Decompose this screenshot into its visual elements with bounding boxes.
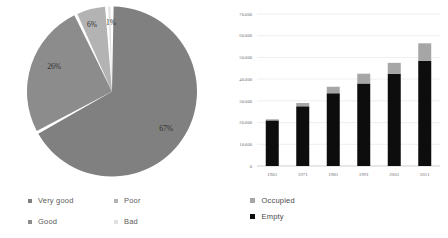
y-tick-label-60000: 60.000 xyxy=(239,33,252,38)
legend-item-bad[interactable]: Bad xyxy=(114,217,200,226)
bar-series-group xyxy=(266,43,432,166)
y-tick-label-0: 0 xyxy=(250,164,253,169)
bar-segment-occupied-2011[interactable] xyxy=(418,43,431,60)
bar-segment-empty-1971[interactable] xyxy=(296,106,309,166)
x-tick-label-1971: 1971 xyxy=(298,172,309,177)
bar-segment-occupied-1971[interactable] xyxy=(296,103,309,106)
legend-swatch-poor xyxy=(114,199,118,203)
x-tick-label-1981: 1981 xyxy=(328,172,339,177)
legend-item-empty[interactable]: Empty xyxy=(250,212,390,221)
pie-chart-figure: 67%26%6%1% xyxy=(13,5,211,178)
bar-y-axis-ticks: 010.00020.00030.00040.00050.00060.00070.… xyxy=(239,12,252,169)
bar-segment-occupied-1961[interactable] xyxy=(266,119,279,120)
pie-chart-svg: 67%26%6%1% xyxy=(13,5,211,178)
bar-legend: Occupied Empty xyxy=(250,196,390,221)
legend-item-occupied[interactable]: Occupied xyxy=(250,196,390,205)
bar-gridlines xyxy=(257,14,440,166)
legend-swatch-empty xyxy=(250,214,255,219)
pie-chart-panel: 67%26%6%1% Very good Poor Good Bad xyxy=(0,0,224,238)
legend-label-poor: Poor xyxy=(124,196,141,205)
bar-segment-empty-2011[interactable] xyxy=(418,61,431,166)
y-tick-label-10000: 10.000 xyxy=(239,142,252,147)
y-tick-label-50000: 50.000 xyxy=(239,55,252,60)
legend-swatch-very-good xyxy=(28,199,32,203)
x-tick-label-2001: 2001 xyxy=(389,172,400,177)
pie-legend: Very good Poor Good Bad xyxy=(28,190,208,232)
bar-x-axis-ticks: 196119711981199120012011 xyxy=(267,172,430,177)
x-tick-label-1961: 1961 xyxy=(267,172,278,177)
legend-swatch-occupied xyxy=(250,198,255,203)
y-tick-label-40000: 40.000 xyxy=(239,77,252,82)
legend-item-poor[interactable]: Poor xyxy=(114,196,200,205)
bar-chart-figure: 010.00020.00030.00040.00050.00060.00070.… xyxy=(224,6,448,186)
legend-label-good: Good xyxy=(38,217,57,226)
legend-label-empty: Empty xyxy=(262,212,284,221)
pie-data-label-poor: 6% xyxy=(87,20,97,29)
pie-data-label-bad: 1% xyxy=(106,18,116,27)
bar-segment-occupied-1991[interactable] xyxy=(357,74,370,84)
legend-item-very-good[interactable]: Very good xyxy=(28,196,114,205)
bar-segment-empty-1961[interactable] xyxy=(266,120,279,166)
y-tick-label-30000: 30.000 xyxy=(239,99,252,104)
y-tick-label-70000: 70.000 xyxy=(239,12,252,17)
bar-segment-empty-1991[interactable] xyxy=(357,83,370,166)
bar-segment-occupied-1981[interactable] xyxy=(327,87,340,94)
legend-swatch-good xyxy=(28,220,32,224)
legend-label-bad: Bad xyxy=(124,217,138,226)
bar-chart-panel: 010.00020.00030.00040.00050.00060.00070.… xyxy=(224,0,448,238)
x-tick-label-1991: 1991 xyxy=(359,172,370,177)
legend-label-occupied: Occupied xyxy=(262,196,295,205)
legend-swatch-bad xyxy=(114,220,118,224)
pie-data-label-very-good: 67% xyxy=(159,124,173,133)
y-tick-label-20000: 20.000 xyxy=(239,120,252,125)
legend-label-very-good: Very good xyxy=(38,196,74,205)
chart-page: 67%26%6%1% Very good Poor Good Bad xyxy=(0,0,448,238)
x-tick-label-2011: 2011 xyxy=(420,172,430,177)
bar-segment-empty-2001[interactable] xyxy=(388,74,401,166)
legend-item-good[interactable]: Good xyxy=(28,217,114,226)
pie-data-label-good: 26% xyxy=(47,62,61,71)
bar-chart-svg: 010.00020.00030.00040.00050.00060.00070.… xyxy=(224,6,448,186)
bar-segment-empty-1981[interactable] xyxy=(327,93,340,166)
bar-segment-occupied-2001[interactable] xyxy=(388,63,401,74)
pie-slice-group xyxy=(27,7,197,177)
